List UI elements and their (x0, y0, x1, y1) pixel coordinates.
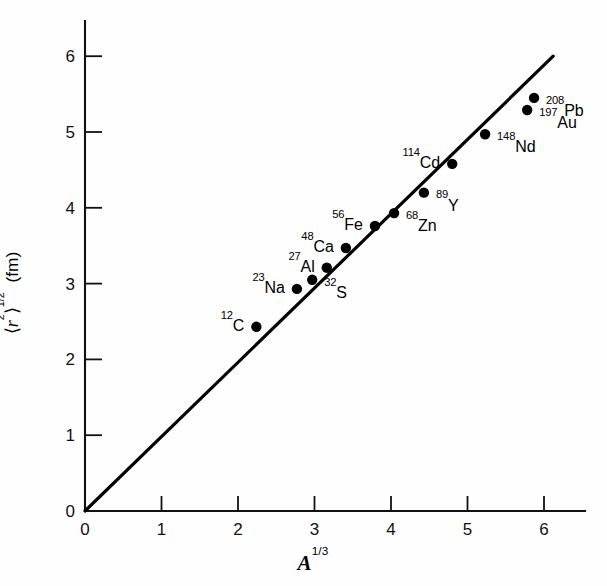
x-tick-label: 1 (157, 521, 166, 538)
y-axis-bracket-open: ⟨ (2, 327, 22, 334)
data-point (370, 221, 380, 231)
nuclide-mass-number: 32 (324, 275, 336, 287)
data-point (389, 208, 399, 218)
nuclear-radius-chart: 0123456 0123456 12C23Na32S27Al48Ca56Fe68… (0, 0, 607, 586)
y-axis-variable: r (2, 320, 22, 327)
y-axis-title: ⟨r2⟩1/2 (fm) (2, 143, 21, 443)
data-points (251, 93, 539, 332)
nuclide-symbol: Zn (418, 217, 437, 234)
nuclide-symbol: Fe (344, 216, 363, 233)
y-tick-label: 5 (66, 124, 75, 141)
x-tick-label: 2 (233, 521, 242, 538)
nuclide-mass-number: 48 (301, 230, 313, 242)
x-tick-label: 0 (80, 521, 89, 538)
x-tick-label: 5 (463, 521, 472, 538)
x-tick-label: 4 (386, 521, 395, 538)
nuclide-label: 68Zn (406, 216, 437, 234)
nuclide-mass-number: 89 (436, 188, 448, 200)
nuclide-label: 56Fe (332, 215, 363, 233)
data-point (307, 275, 317, 285)
x-axis-title: A1/3 (297, 551, 328, 576)
data-point (292, 284, 302, 294)
nuclide-symbol: Y (448, 197, 459, 214)
y-tick-label: 1 (66, 427, 75, 444)
nuclide-label: 114Cd (402, 153, 440, 171)
nuclide-symbol: Na (264, 279, 284, 296)
data-point (251, 322, 261, 332)
x-tick-label: 6 (539, 521, 548, 538)
nuclide-mass-number: 148 (497, 130, 515, 142)
nuclide-symbol: S (336, 284, 347, 301)
nuclide-label: 12C (221, 316, 245, 334)
nuclide-symbol: Al (301, 258, 315, 275)
nuclide-symbol: Cd (420, 154, 440, 171)
y-tick-label: 6 (66, 48, 75, 65)
nuclide-mass-number: 23 (252, 271, 264, 283)
nuclide-label: 148Nd (497, 137, 536, 155)
y-tick-label: 3 (66, 275, 75, 292)
y-axis-unit: (fm) (2, 252, 22, 283)
nuclide-mass-number: 68 (406, 209, 418, 221)
nuclide-symbol: Pb (564, 102, 584, 119)
data-point (480, 129, 490, 139)
nuclide-symbol: C (233, 317, 245, 334)
nuclide-mass-number: 56 (332, 208, 344, 220)
data-point (447, 159, 457, 169)
nuclide-symbol: Nd (515, 138, 535, 155)
x-axis-title-exponent: 1/3 (312, 544, 329, 557)
plot-canvas (0, 0, 607, 586)
data-point (419, 187, 429, 197)
nuclide-mass-number: 27 (288, 249, 300, 261)
nuclide-symbol: Ca (313, 238, 333, 255)
data-point (522, 105, 532, 115)
data-point (322, 262, 332, 272)
fit-line (85, 56, 553, 511)
y-tick-label: 0 (66, 503, 75, 520)
data-point (341, 243, 351, 253)
nuclide-mass-number: 12 (221, 308, 233, 320)
data-point (529, 93, 539, 103)
y-axis-variable-exponent: 2 (0, 314, 6, 320)
y-axis-root-exponent: 1/2 (0, 292, 6, 307)
nuclide-label: 32S (324, 283, 347, 301)
nuclide-label: 208Pb (546, 101, 584, 119)
nuclide-label: 48Ca (301, 237, 334, 255)
nuclide-label: 27Al (288, 257, 314, 275)
fit-line-segment (85, 56, 553, 511)
nuclide-label: 23Na (252, 278, 285, 296)
x-tick-label: 3 (310, 521, 319, 538)
nuclide-label: 89Y (436, 195, 459, 213)
y-tick-label: 4 (66, 199, 75, 216)
y-tick-label: 2 (66, 351, 75, 368)
nuclide-mass-number: 114 (402, 146, 419, 158)
nuclide-mass-number: 208 (546, 94, 564, 106)
x-axis-title-base: A (297, 551, 311, 575)
